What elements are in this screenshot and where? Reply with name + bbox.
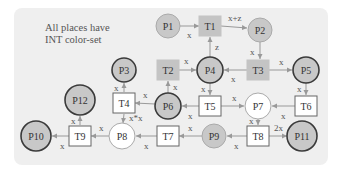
arc-label: x	[234, 141, 239, 151]
transition-label: T9	[74, 131, 85, 142]
place-label: P10	[28, 131, 44, 142]
arc-label: x	[297, 84, 302, 94]
place-p11[interactable]: P11	[287, 121, 317, 151]
place-p2[interactable]: P2	[248, 18, 272, 42]
place-p8[interactable]: P8	[109, 123, 135, 149]
arc-label: x*x	[129, 113, 143, 123]
place-p1[interactable]: P1	[156, 14, 180, 38]
arc-label: x	[231, 74, 236, 84]
arc-label: x	[60, 141, 65, 151]
place-label: P9	[209, 131, 220, 142]
arc-label: x	[184, 56, 189, 66]
transition-t3[interactable]: T3	[247, 60, 269, 80]
arc-p6-t4	[135, 103, 155, 104]
arc-label: x	[201, 84, 206, 94]
arc-label: x	[279, 57, 284, 67]
place-label: P4	[205, 65, 216, 76]
place-label: P12	[72, 95, 88, 106]
place-label: P7	[253, 101, 264, 112]
arc-label: x+z	[228, 13, 242, 23]
place-p4[interactable]: P4	[197, 57, 223, 83]
arcs-layer	[52, 26, 306, 136]
place-label: P6	[163, 101, 174, 112]
transition-t4[interactable]: T4	[113, 93, 135, 113]
place-label: P2	[255, 25, 266, 36]
arc-label: x	[250, 47, 255, 57]
transition-label: T5	[204, 101, 215, 112]
arc-label: z	[215, 42, 219, 52]
place-p10[interactable]: P10	[21, 121, 51, 151]
arc-label: 2x	[274, 123, 284, 133]
arc-label: x	[173, 82, 178, 92]
petri-net: xx+zzxxxxxxxxxxxxx*xxx2xxxxxx P1P2P3P4P5…	[0, 0, 340, 171]
transition-label: T6	[300, 101, 311, 112]
place-p12[interactable]: P12	[65, 85, 95, 115]
place-p5[interactable]: P5	[293, 57, 319, 83]
transition-t2[interactable]: T2	[157, 60, 179, 80]
place-label: P1	[163, 21, 174, 32]
arc-label: x	[281, 111, 286, 121]
arc-label: x	[188, 111, 193, 121]
arc-t1-p2	[221, 26, 247, 28]
transition-t7[interactable]: T7	[157, 126, 179, 146]
transition-label: T7	[162, 131, 173, 142]
transition-label: T4	[118, 98, 129, 109]
transition-t1[interactable]: T1	[199, 16, 221, 36]
transition-label: T1	[204, 21, 215, 32]
transition-t8[interactable]: T8	[247, 126, 269, 146]
place-label: P11	[294, 131, 309, 142]
transition-t6[interactable]: T6	[295, 96, 317, 116]
place-label: P8	[117, 131, 128, 142]
place-p9[interactable]: P9	[202, 124, 226, 148]
transition-label: T8	[252, 131, 263, 142]
arc-label: x	[143, 90, 148, 100]
arc-label: x	[144, 141, 149, 151]
transition-label: T2	[162, 65, 173, 76]
arc-label: x	[99, 123, 104, 133]
arc-label: x	[187, 30, 192, 40]
place-p3[interactable]: P3	[112, 58, 136, 82]
arc-label: x	[232, 93, 237, 103]
arc-label: x	[71, 116, 76, 126]
place-p6[interactable]: P6	[155, 93, 181, 119]
transition-label: T3	[252, 65, 263, 76]
arc-label: x	[114, 83, 119, 93]
place-label: P3	[119, 65, 130, 76]
place-p7[interactable]: P7	[245, 93, 271, 119]
transition-t5[interactable]: T5	[199, 96, 221, 116]
place-label: P5	[301, 65, 312, 76]
arc-t4-p8	[123, 114, 124, 123]
transition-t9[interactable]: T9	[69, 126, 91, 146]
arc-label: x	[188, 123, 193, 133]
